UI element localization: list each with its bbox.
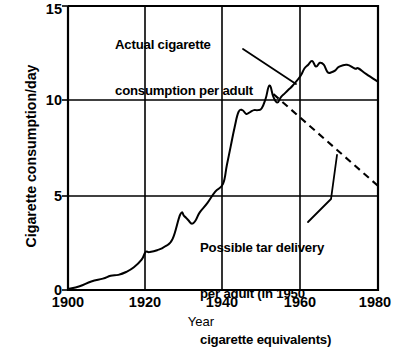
series-tar-delivery <box>273 94 378 186</box>
y-tick-label-10: 10 <box>22 92 62 108</box>
x-tick-label-1920: 1920 <box>129 294 161 310</box>
y-axis-title: Cigarette consumption/day <box>23 31 39 281</box>
annotation-actual-line-2: consumption per adult <box>115 83 253 98</box>
y-tick-label-15: 15 <box>22 1 62 17</box>
y-tick-label-5: 5 <box>22 188 62 204</box>
annotation-tar-delivery: Possible tar delivery per adult (in 1950… <box>200 209 331 351</box>
annotation-actual-line-1: Actual cigarette <box>115 37 253 52</box>
x-tick-label-1900: 1900 <box>52 294 84 310</box>
annotation-tar-line-2: per adult (in 1950 <box>200 286 331 301</box>
x-tick-label-1980: 1980 <box>359 294 391 310</box>
annotation-actual-consumption: Actual cigarette consumption per adult <box>115 6 253 129</box>
annotation-tar-line-3: cigarette equivalents) <box>200 332 331 347</box>
annotation-tar-line-1: Possible tar delivery <box>200 240 331 255</box>
